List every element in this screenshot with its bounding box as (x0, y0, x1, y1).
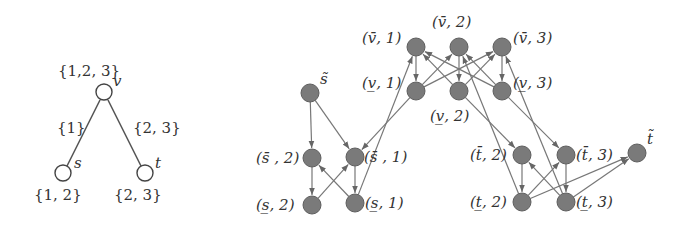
label-v-bar-3: (v̄, 3) (513, 29, 552, 47)
label-v-bar-1: (v̄, 1) (362, 29, 401, 47)
tree-edge-vt-label: {2, 3} (133, 119, 181, 137)
node-s_under_1 (346, 194, 364, 212)
label-v-bar-2: (v̄, 2) (432, 13, 471, 31)
node-v_bar_3 (493, 38, 511, 56)
label-s-under-2: (s̲, 2) (256, 196, 295, 214)
label-v-under-2: (v̲, 2) (430, 107, 469, 125)
tree-node-s-set: {1, 2} (34, 186, 82, 204)
label-s-under-1: (s̲, 1) (365, 194, 404, 212)
tree-node-v-name: v (113, 72, 122, 90)
edge-t_under_3-to-t_tilde (573, 159, 628, 197)
tree-node-s (55, 165, 71, 181)
label-s-tilde: s̃ (320, 70, 328, 88)
edge-v_under_1-to-s_bar_1 (362, 98, 410, 150)
label-s-bar-2: (s̄ , 2) (256, 149, 299, 167)
node-s_tilde (301, 84, 319, 102)
node-v_bar_2 (450, 38, 468, 56)
label-t-under-2: (t̲, 2) (470, 193, 507, 211)
tree-node-t-set: {2, 3} (114, 186, 162, 204)
node-v_under_1 (407, 82, 425, 100)
edge-s_tilde-to-s_bar_2 (310, 102, 311, 148)
label-t-bar-2: (t̄, 2) (470, 146, 507, 164)
tree-node-v-set: {1,2, 3} (58, 62, 120, 80)
node-v_under_2 (450, 82, 468, 100)
graph-edges (310, 52, 629, 199)
tree-decomposition: {1,2, 3} v {1} {2, 3} s {1, 2} t {2, 3} (34, 62, 181, 204)
node-v_bar_1 (407, 38, 425, 56)
edge-t_under_2-to-v_bar_2 (463, 56, 519, 193)
label-t-tilde: t̃ (647, 129, 654, 148)
label-t-bar-3: (t̄, 3) (576, 146, 613, 164)
diagram-canvas: {1,2, 3} v {1} {2, 3} s {1, 2} t {2, 3} … (0, 0, 689, 230)
graph-nodes (301, 38, 646, 214)
edge-s_tilde-to-s_bar_1 (315, 100, 349, 148)
tree-edge-vs-label: {1} (57, 119, 86, 137)
label-v-under-1: (v̲, 1) (362, 74, 401, 92)
tree-node-t (137, 165, 153, 181)
label-v-under-3: (v̲, 3) (513, 74, 552, 92)
node-s_bar_2 (303, 149, 321, 167)
label-t-under-3: (t̲, 3) (576, 193, 613, 211)
node-s_bar_1 (346, 148, 364, 166)
tree-node-s-name: s (74, 154, 82, 172)
node-v_under_3 (493, 82, 511, 100)
label-s-bar-1: (s̄ , 1) (364, 148, 407, 166)
tree-node-v (96, 84, 112, 100)
node-t_bar_3 (557, 146, 575, 164)
node-t_tilde (628, 144, 646, 162)
node-t_bar_2 (513, 146, 531, 164)
node-s_under_2 (303, 196, 321, 214)
node-t_under_2 (513, 193, 531, 211)
tree-node-t-name: t (155, 154, 162, 172)
node-t_under_3 (557, 193, 575, 211)
